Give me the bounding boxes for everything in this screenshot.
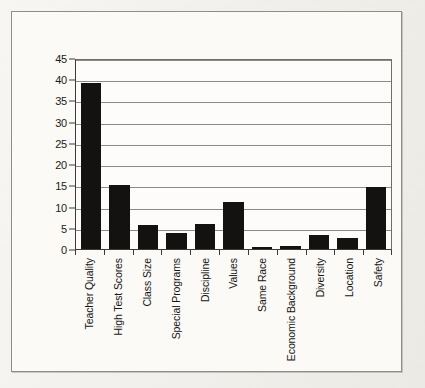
x-axis-label-slot: Safety [363,258,392,378]
bar[interactable] [366,187,386,249]
y-axis-tick-label: 10 [55,202,67,213]
bar[interactable] [337,238,357,249]
bar-slot [134,60,162,249]
plot-area [75,59,392,250]
bar-slot [248,60,276,249]
x-axis-category-label: Same Race [257,258,268,312]
x-axis-category-label: Values [228,258,239,289]
x-axis-tick-mark [104,250,105,255]
y-axis-tick-label: 20 [55,160,67,171]
x-axis-ticks [75,250,392,256]
y-axis-tick-label: 30 [55,117,67,128]
y-axis-tick-label: 40 [55,75,67,86]
x-axis-tick-mark [248,250,249,255]
bar[interactable] [138,225,158,249]
x-axis-label-slot: High Test Scores [104,258,133,378]
x-axis-tick-mark [391,250,392,255]
x-axis-label-slot: Location [334,258,363,378]
bar-series [76,60,391,249]
y-axis-tick-label: 0 [61,245,67,256]
x-axis-tick-mark [334,250,335,255]
bar[interactable] [166,233,186,249]
bar[interactable] [252,247,272,249]
x-axis-category-label: Safety [372,258,383,287]
x-axis-label-slot: Same Race [248,258,277,378]
x-axis-tick-slot [363,250,392,256]
x-axis-category-label: High Test Scores [113,258,124,336]
x-axis-label-slot: Teacher Quality [75,258,104,378]
x-axis-tick-slot [277,250,306,256]
x-axis-tick-mark [75,250,76,255]
x-axis-tick-slot [104,250,133,256]
bar-slot [333,60,361,249]
bar-slot [77,60,105,249]
x-axis-tick-slot [306,250,335,256]
x-axis-category-label: Diversity [315,258,326,297]
bar-slot [219,60,247,249]
x-axis-category-label: Economic Background [286,258,297,361]
bar-slot [276,60,304,249]
x-axis-tick-slot [161,250,190,256]
figure-container: % Mentioning Item 051015202530354045 Tea… [0,0,425,388]
bar[interactable] [109,185,129,249]
x-axis-tick-slot [75,250,104,256]
x-axis-tick-mark [363,250,364,255]
y-axis-tick-label: 45 [55,54,67,65]
y-axis-tick-label: 5 [61,223,67,234]
x-axis-tick-slot [219,250,248,256]
bar-slot [162,60,190,249]
x-axis-category-label: Discipline [199,258,210,302]
bar[interactable] [280,246,300,249]
x-axis-label-slot: Discipline [190,258,219,378]
figure-frame: % Mentioning Item 051015202530354045 Tea… [11,11,402,372]
bar-slot [105,60,133,249]
x-axis-tick-slot [133,250,162,256]
x-axis-label-slot: Economic Background [277,258,306,378]
x-axis-category-label: Teacher Quality [84,258,95,329]
x-axis-tick-mark [133,250,134,255]
x-axis-labels: Teacher QualityHigh Test ScoresClass Siz… [75,258,392,378]
x-axis-tick-mark [306,250,307,255]
y-axis-tick-label: 35 [55,96,67,107]
x-axis-tick-mark [190,250,191,255]
x-axis-tick-mark [277,250,278,255]
bar-slot [191,60,219,249]
x-axis-category-label: Special Programs [171,258,182,339]
x-axis-label-slot: Class Size [133,258,162,378]
x-axis-label-slot: Values [219,258,248,378]
x-axis-category-label: Location [343,258,354,297]
y-axis-ticks: 051015202530354045 [12,59,75,250]
x-axis-label-slot: Diversity [306,258,335,378]
bar[interactable] [195,224,215,249]
x-axis-tick-slot [190,250,219,256]
x-axis-tick-slot [334,250,363,256]
bar[interactable] [81,83,101,249]
x-axis-tick-mark [219,250,220,255]
x-axis-tick-mark [161,250,162,255]
x-axis-label-slot: Special Programs [161,258,190,378]
bar-slot [305,60,333,249]
x-axis-tick-slot [248,250,277,256]
y-axis-tick-label: 25 [55,138,67,149]
bar[interactable] [309,235,329,249]
bar[interactable] [223,202,243,249]
bar-slot [362,60,390,249]
y-axis-tick-label: 15 [55,181,67,192]
x-axis-category-label: Class Size [142,258,153,307]
